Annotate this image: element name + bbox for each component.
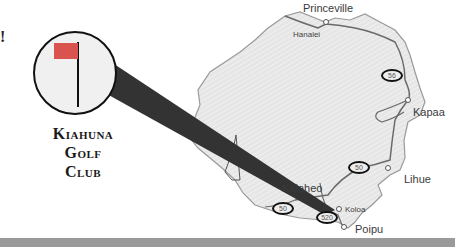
club-title-line-3: Club (28, 162, 138, 181)
route-520-shield: 520 (316, 211, 338, 224)
town-label-hanalei: Hanalei (293, 31, 320, 39)
town-label-poipu: Poipu (355, 224, 383, 235)
town-label-kapaa: Kapaa (413, 107, 445, 118)
kauai-map: ! Kiahuna Golf Club Princeville Hanalei … (0, 0, 455, 247)
town-label-kalaheo: Kalaheo (282, 183, 322, 194)
footer-bar (0, 238, 455, 247)
flag-icon (54, 43, 78, 59)
town-label-lihue: Lihue (404, 174, 431, 185)
club-title-line-1: Kiahuna (28, 124, 138, 143)
route-50-shield-east: 50 (348, 161, 370, 174)
club-title-line-2: Golf (28, 143, 138, 162)
town-label-princeville: Princeville (303, 3, 353, 14)
route-50-shield-west: 50 (272, 202, 294, 215)
route-56-shield: 56 (381, 69, 403, 82)
town-label-koloa: Koloa (345, 206, 365, 214)
golf-club-title: Kiahuna Golf Club (28, 124, 138, 181)
cropped-edge-glyph: ! (0, 28, 5, 46)
